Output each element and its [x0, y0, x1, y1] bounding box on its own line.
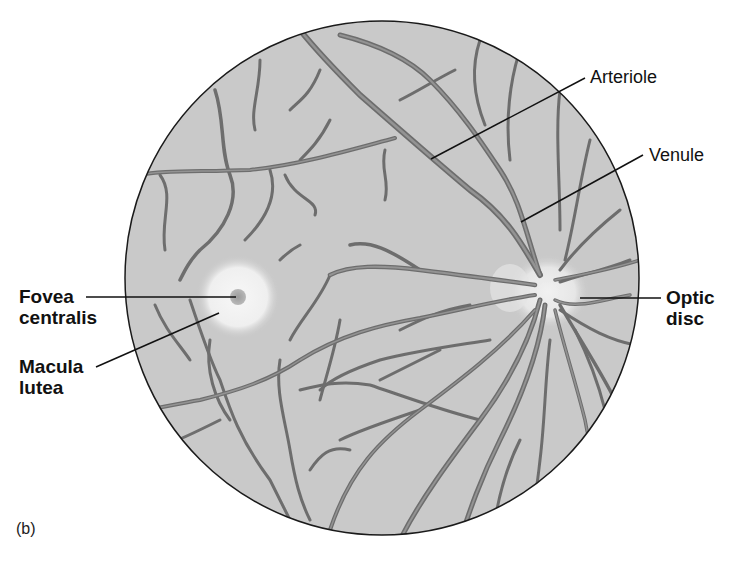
label-venule: Venule — [649, 145, 704, 165]
panel-label: (b) — [16, 520, 36, 538]
label-macula-lutea: Macula lutea — [19, 356, 83, 399]
label-fovea-centralis: Fovea centralis — [19, 286, 97, 329]
label-optic-disc: Optic disc — [666, 287, 715, 330]
label-arteriole: Arteriole — [590, 67, 657, 87]
